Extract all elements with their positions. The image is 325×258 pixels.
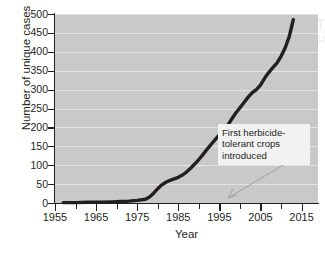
- x-tick-minor: [76, 204, 77, 209]
- x-tick-label: 2005: [240, 211, 280, 223]
- y-tick: [48, 165, 54, 166]
- x-axis-label: Year: [55, 228, 318, 240]
- y-tick: [48, 127, 54, 128]
- x-tick-major: [55, 204, 56, 211]
- x-tick-minor: [158, 204, 159, 209]
- annotation-textbox: First herbicide- tolerant crops introduc…: [218, 124, 310, 165]
- x-tick-major: [96, 204, 97, 211]
- y-axis-label: Number of unique cases: [20, 0, 32, 148]
- x-tick-major: [137, 204, 138, 211]
- y-tick: [48, 109, 54, 110]
- y-tick: [48, 184, 54, 185]
- y-tick: [48, 33, 54, 34]
- y-tick: [48, 52, 54, 53]
- annotation-line-3: introduced: [222, 150, 306, 161]
- y-tick-label: 0: [4, 198, 48, 209]
- x-tick-minor: [117, 204, 118, 209]
- x-tick-label: 1975: [117, 211, 157, 223]
- x-tick-label: 1965: [76, 211, 116, 223]
- y-tick-label: 100: [4, 160, 48, 171]
- y-tick: [48, 90, 54, 91]
- y-axis-line: [54, 13, 55, 204]
- x-tick-label: 1995: [199, 211, 239, 223]
- x-tick-label: 1985: [158, 211, 198, 223]
- y-tick-label: 50: [4, 179, 48, 190]
- x-tick-label: 1955: [35, 211, 75, 223]
- y-tick: [48, 14, 54, 15]
- x-tick-label: 2015: [282, 211, 322, 223]
- y-tick: [48, 203, 54, 204]
- y-tick: [48, 146, 54, 147]
- chart-figure: Types of GM Crops Herbicide Tolerance 05…: [0, 0, 325, 258]
- y-tick: [48, 71, 54, 72]
- annotation-line-1: First herbicide-: [222, 127, 306, 138]
- annotation-line-2: tolerant crops: [222, 138, 306, 149]
